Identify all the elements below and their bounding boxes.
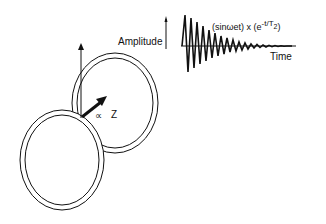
front-coil (20, 110, 104, 210)
time-label: Time (270, 52, 292, 62)
amplitude-label: Amplitude (118, 37, 162, 47)
diagram-canvas (0, 0, 326, 224)
formula-main: (sinωet) x (e (212, 22, 262, 32)
formula-close: ) (277, 22, 280, 32)
alpha-label: ∝ (95, 111, 102, 121)
vertical-axis-arrow (78, 43, 84, 118)
formula-label: (sinωet) x (e-t/T2) (212, 20, 280, 32)
formula-exponent: -t/T (262, 19, 274, 28)
z-axis-label: Z (111, 110, 117, 120)
amplitude-axis-arrow (165, 16, 168, 49)
